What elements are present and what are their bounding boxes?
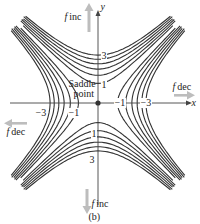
arrow-right-shaft [174,94,188,97]
f-symbol: f [92,198,95,209]
figure-caption: (b) [88,212,101,222]
level-label-3-bottom: 3 [89,155,95,165]
dec-text: dec [177,81,191,92]
y-axis-label: y [100,2,105,12]
f-symbol: f [173,81,176,92]
f-symbol: f [65,11,68,22]
contour-plot [0,0,200,224]
arrow-left-shaft [11,122,27,125]
saddle-label-line2: point [73,89,95,99]
f-symbol: f [7,126,10,137]
label-f-dec-left: f dec [6,127,26,137]
arrow-down-shaft [86,189,89,207]
label-f-inc-top: f inc [64,12,82,22]
arrow-up-icon [85,3,94,11]
label-f-dec-right: f dec [172,82,192,92]
level-label-1-top: 1 [101,80,107,90]
level-label-3-top: 3 [101,51,107,61]
level-label-neg1-right: −1 [114,98,126,108]
x-axis-label: x [191,98,196,108]
saddle-point-dot [95,100,100,105]
level-label-1-bottom: 1 [91,129,97,139]
arrow-up-shaft [88,10,91,32]
inc-text: inc [96,198,108,209]
inc-text: inc [69,11,81,22]
level-label-neg1-left: −1 [68,108,80,118]
level-label-neg3-left: −3 [35,108,47,118]
label-f-inc-bottom: f inc [91,199,109,209]
level-label-neg3-right: −3 [140,98,152,108]
dec-text: dec [11,126,25,137]
contour-diagram: y x Saddle point f inc f inc f dec f dec… [0,0,200,224]
